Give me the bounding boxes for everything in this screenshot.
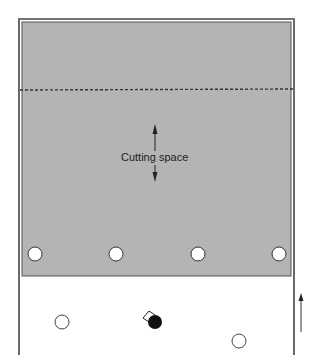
direction-up-arrow-icon [299,293,304,332]
hole-1 [28,247,42,261]
open-marker-2 [232,334,246,348]
cutting-space-diagram [0,0,315,363]
hole-3 [191,247,205,261]
cutting-space-label: Cutting space [121,151,188,163]
player-icon [143,311,162,329]
shaded-cutting-area [22,22,291,276]
open-marker-1 [55,315,69,329]
dashed-line [20,89,294,90]
hole-2 [109,247,123,261]
hole-4 [272,247,286,261]
